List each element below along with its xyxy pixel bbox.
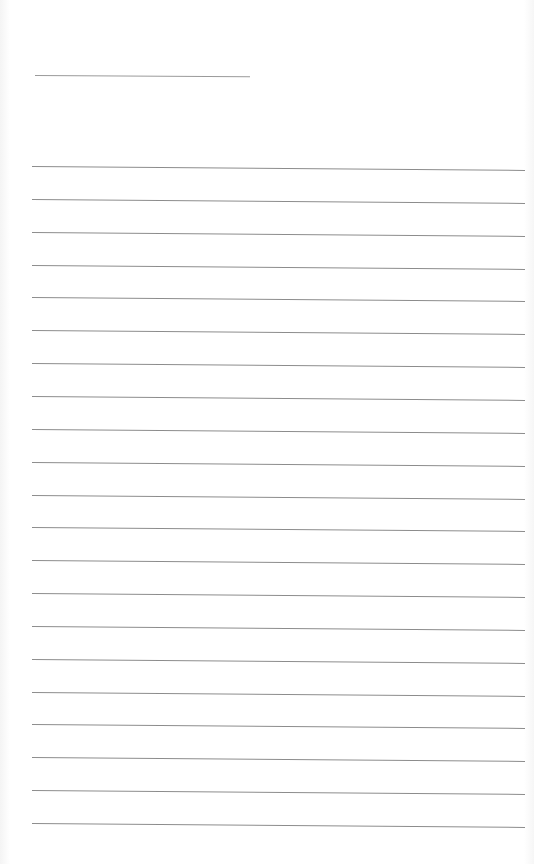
ruled-line <box>32 396 525 401</box>
ruled-line <box>32 626 525 631</box>
ruled-line <box>32 560 525 565</box>
ruled-line <box>32 232 525 237</box>
ruled-line <box>32 527 525 532</box>
ruled-line <box>32 297 525 302</box>
ruled-line <box>32 757 525 762</box>
ruled-line <box>32 265 525 270</box>
ruled-line <box>32 429 525 434</box>
ruled-line <box>32 593 525 598</box>
notepaper-page <box>0 0 534 864</box>
ruled-line <box>32 199 525 204</box>
ruled-line <box>32 692 525 697</box>
ruled-line <box>32 166 525 171</box>
ruled-line <box>32 659 525 664</box>
ruled-line <box>32 724 525 729</box>
ruled-line <box>32 823 525 828</box>
ruled-line <box>32 363 525 368</box>
ruled-line <box>32 495 525 500</box>
ruled-line <box>32 790 525 795</box>
ruled-line <box>32 330 525 335</box>
ruled-line <box>32 462 525 467</box>
title-underline <box>35 75 250 77</box>
